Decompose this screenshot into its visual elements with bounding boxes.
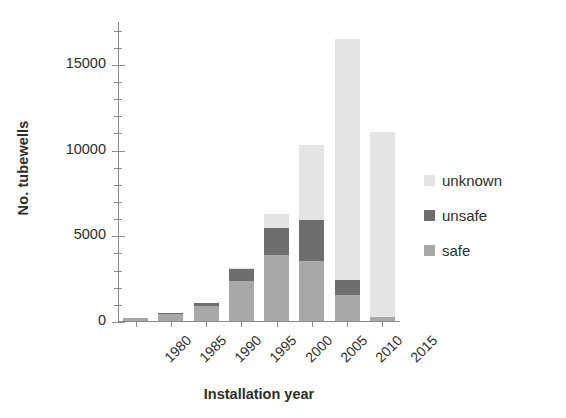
x-tick-label: 2015: [408, 332, 441, 365]
y-tick-major: [112, 151, 125, 152]
x-tick: [312, 321, 313, 327]
y-tick-major: [112, 65, 125, 66]
y-tick-minor: [114, 185, 122, 186]
y-tick-major: [112, 322, 125, 323]
y-tick-minor: [114, 99, 122, 100]
bar-stack[interactable]: [370, 132, 395, 321]
legend-swatch-icon: [424, 245, 435, 256]
x-tick: [347, 321, 348, 327]
legend-label: unknown: [442, 172, 502, 189]
x-tick: [382, 321, 383, 327]
bar-segment-safe: [229, 281, 254, 321]
y-tick-minor: [114, 48, 122, 49]
bar-segment-unknown: [299, 145, 324, 220]
y-tick-minor: [114, 31, 122, 32]
x-tick-label: 1995: [267, 332, 300, 365]
y-tick-minor: [114, 219, 122, 220]
y-tick-major: [112, 236, 125, 237]
bar-stack[interactable]: [158, 313, 183, 321]
bar-segment-safe: [194, 306, 219, 321]
bar-segment-safe: [299, 261, 324, 321]
bar-stack[interactable]: [229, 268, 254, 321]
legend-item[interactable]: unsafe: [424, 198, 554, 233]
y-tick-label: 10000: [26, 141, 106, 157]
bar-segment-unsafe: [299, 220, 324, 261]
legend-item[interactable]: unknown: [424, 163, 554, 198]
x-axis-title: Installation year: [118, 386, 400, 402]
x-tick-label: 2010: [372, 332, 405, 365]
x-axis-line: [118, 321, 400, 322]
bar-stack[interactable]: [194, 303, 219, 321]
bar-segment-safe: [335, 295, 360, 321]
y-axis-line: [118, 22, 119, 322]
y-tick-minor: [114, 82, 122, 83]
x-tick: [277, 321, 278, 327]
x-tick: [136, 321, 137, 327]
y-tick-label: 15000: [26, 55, 106, 71]
x-tick-label: 2000: [302, 332, 335, 365]
y-tick-minor: [114, 133, 122, 134]
legend-swatch-icon: [424, 175, 435, 186]
chart-legend: unknownunsafesafe: [424, 163, 554, 268]
bar-stack[interactable]: [264, 214, 289, 321]
y-tick-minor: [114, 168, 122, 169]
y-tick-minor: [114, 202, 122, 203]
y-tick-label: 0: [26, 312, 106, 328]
y-tick-minor: [114, 305, 122, 306]
legend-swatch-icon: [424, 210, 435, 221]
x-tick: [171, 321, 172, 327]
x-tick-label: 1980: [161, 332, 194, 365]
legend-label: unsafe: [442, 207, 487, 224]
x-tick-label: 1990: [231, 332, 264, 365]
x-tick: [206, 321, 207, 327]
bar-segment-unsafe: [229, 269, 254, 281]
x-tick: [241, 321, 242, 327]
bar-segment-unknown: [370, 132, 395, 316]
y-tick-minor: [114, 271, 122, 272]
plot-area: 050001000015000: [118, 22, 400, 322]
bar-segment-unsafe: [264, 228, 289, 255]
y-tick-minor: [114, 116, 122, 117]
x-tick-label: 2005: [337, 332, 370, 365]
bar-segment-unknown: [335, 39, 360, 280]
bar-stack[interactable]: [299, 145, 324, 321]
x-tick-label: 1985: [196, 332, 229, 365]
legend-item[interactable]: safe: [424, 233, 554, 268]
bar-segment-safe: [264, 255, 289, 321]
bar-segment-safe: [158, 314, 183, 321]
legend-label: safe: [442, 242, 470, 259]
bar-segment-unknown: [264, 214, 289, 229]
y-tick-minor: [114, 288, 122, 289]
bar-stack[interactable]: [335, 39, 360, 321]
chart-figure: No. tubewells 050001000015000 1980198519…: [0, 0, 566, 418]
y-tick-label: 5000: [26, 226, 106, 242]
bar-segment-unsafe: [335, 280, 360, 295]
y-tick-minor: [114, 253, 122, 254]
